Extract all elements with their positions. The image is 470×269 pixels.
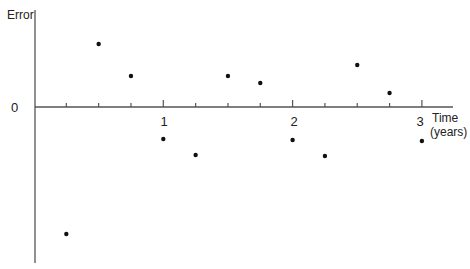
data-point bbox=[323, 154, 327, 158]
x-tick-label-1: 1 bbox=[160, 115, 167, 128]
x-axis-label: Time bbox=[432, 112, 458, 124]
x-tick-label-3: 3 bbox=[416, 115, 423, 128]
y-zero-label: 0 bbox=[11, 101, 18, 114]
x-tick-label-2: 2 bbox=[290, 115, 297, 128]
data-point bbox=[387, 91, 391, 95]
data-point bbox=[129, 74, 133, 78]
data-point bbox=[193, 153, 197, 157]
data-point bbox=[161, 137, 165, 141]
data-points bbox=[64, 42, 424, 236]
x-axis-ticks bbox=[66, 100, 422, 107]
data-point bbox=[355, 63, 359, 67]
error-scatter-plot bbox=[0, 0, 470, 269]
data-point bbox=[258, 81, 262, 85]
data-point bbox=[96, 42, 100, 46]
x-axis-label-units: (years) bbox=[430, 126, 467, 138]
data-point bbox=[226, 74, 230, 78]
data-point bbox=[64, 232, 68, 236]
y-axis-label: Error bbox=[7, 9, 34, 21]
data-point bbox=[290, 138, 294, 142]
data-point bbox=[420, 139, 424, 143]
